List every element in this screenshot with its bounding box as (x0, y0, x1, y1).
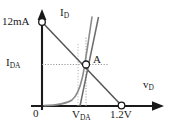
operating-voltage-sub: DA (80, 113, 91, 122)
x-axis-label-sub: D (149, 83, 154, 92)
y-intercept-marker (39, 19, 46, 26)
origin-label: 0 (33, 108, 39, 119)
x-axis-label: vD (143, 79, 154, 90)
operating-voltage-label: VDA (72, 109, 91, 120)
operating-current-sub: DA (10, 61, 21, 70)
y-intercept-label: 12mA (2, 16, 30, 27)
operating-point-marker (83, 61, 90, 68)
x-axis-arrowhead (152, 101, 164, 110)
diode-load-line-figure: 12mA ID IDA A VDA 1.2V vD 0 (0, 0, 170, 131)
x-axis-label-base: v (143, 78, 149, 90)
x-intercept-label: 1.2V (110, 109, 132, 120)
operating-current-label: IDA (6, 57, 20, 68)
y-axis-label: ID (60, 7, 69, 18)
operating-point-label: A (93, 54, 101, 65)
operating-voltage-base: V (72, 108, 80, 120)
y-axis-label-sub: D (64, 11, 69, 20)
load-line (42, 22, 122, 106)
